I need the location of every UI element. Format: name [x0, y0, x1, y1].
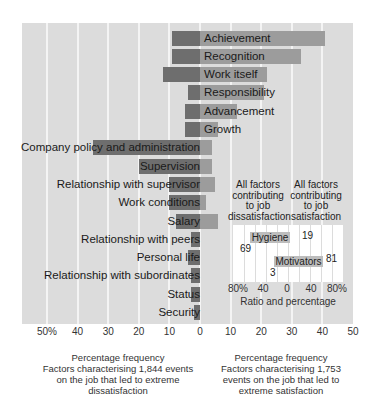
inset-tick: 80%	[327, 283, 347, 294]
inset-header-line: to job	[228, 201, 288, 212]
x-tick-label: 0	[197, 326, 203, 337]
category-label: Growth	[204, 122, 241, 137]
caption-left-line: Factors characterising 1,844 events	[38, 363, 198, 374]
caption-left-line: dissatisfaction	[38, 385, 198, 396]
category-label: Security	[158, 305, 200, 320]
caption-right-line: Factors characterising 1,753	[206, 363, 356, 374]
category-label: Relationship with supervisor	[57, 177, 200, 192]
x-tick-label: 50	[347, 326, 358, 337]
category-label: Status	[167, 287, 200, 302]
bar-satisfaction	[200, 159, 212, 174]
inset-gridline	[321, 225, 322, 282]
inset-plot-area: Hygiene Motivators 69 19 3 81	[233, 225, 343, 282]
bar-dissatisfaction	[172, 31, 200, 46]
caption-right-line: extreme satisfaction	[206, 385, 356, 396]
inset-header-line: to job	[288, 201, 344, 212]
category-label: Recognition	[204, 49, 265, 64]
inset-header-dissatisfaction: All factors contributing to job dissatis…	[228, 180, 288, 222]
inset-tick: 80%	[228, 283, 248, 294]
x-tick-label: 20	[133, 326, 144, 337]
inset-header-line: All factors	[288, 180, 344, 191]
inset-tick: 40	[257, 283, 268, 294]
bar-satisfaction	[200, 214, 218, 229]
caption-left: Percentage frequency Factors characteris…	[38, 352, 198, 396]
x-tick-label: 20	[256, 326, 267, 337]
category-label: Work conditions	[118, 195, 200, 210]
inset-value-motivators-satisfaction: 81	[326, 253, 337, 264]
inset-header-line: satisfaction	[288, 212, 344, 223]
inset-tick: 0	[284, 283, 290, 294]
category-label: Responsibility	[204, 85, 275, 100]
bar-satisfaction	[200, 177, 215, 192]
bar-dissatisfaction	[163, 67, 200, 82]
category-label: Relationship with peers	[81, 232, 200, 247]
inset-header-line: dissatisfaction	[228, 212, 288, 223]
category-label: Supervision	[140, 159, 200, 174]
caption-right-line: events on the job that led to	[206, 374, 356, 385]
bar-dissatisfaction	[185, 104, 200, 119]
bar-dissatisfaction	[185, 122, 200, 137]
x-tick-label: 10	[225, 326, 236, 337]
category-label: Achievement	[204, 31, 270, 46]
inset-bar-motivators: Motivators	[274, 256, 323, 267]
bar-satisfaction	[200, 195, 206, 210]
x-tick-label: 10	[164, 326, 175, 337]
category-label: Personal life	[137, 250, 200, 265]
x-tick-label: 40	[317, 326, 328, 337]
inset-value-hygiene-satisfaction: 19	[302, 230, 313, 241]
category-label: Salary	[167, 214, 200, 229]
bar-dissatisfaction	[188, 85, 200, 100]
inset-gridline	[299, 225, 300, 282]
inset-header-line: All factors	[228, 180, 288, 191]
caption-right: Percentage frequency Factors characteris…	[206, 352, 356, 396]
bar-dissatisfaction	[172, 49, 200, 64]
x-tick-label: 40	[72, 326, 83, 337]
inset-tick: 40	[305, 283, 316, 294]
inset-x-axis-label: Ratio and percentage	[240, 296, 336, 307]
x-tick-label: 50%	[37, 326, 57, 337]
x-tick-label: 30	[103, 326, 114, 337]
inset-value-motivators-dissatisfaction: 3	[270, 267, 276, 278]
category-label: Relationship with subordinates	[44, 268, 200, 283]
inset-header-satisfaction: All factors contributing to job satisfac…	[288, 180, 344, 222]
caption-right-line: Percentage frequency	[206, 352, 356, 363]
inset-bar-hygiene: Hygiene	[250, 232, 290, 243]
category-label: Work itself	[204, 67, 257, 82]
caption-left-line: Percentage frequency	[38, 352, 198, 363]
category-label: Advancement	[204, 104, 274, 119]
caption-left-line: on the job that led to extreme	[38, 374, 198, 385]
category-label: Company policy and administration	[21, 140, 200, 155]
x-tick-label: 30	[286, 326, 297, 337]
inset-value-hygiene-dissatisfaction: 69	[240, 243, 251, 254]
bar-satisfaction	[200, 140, 212, 155]
